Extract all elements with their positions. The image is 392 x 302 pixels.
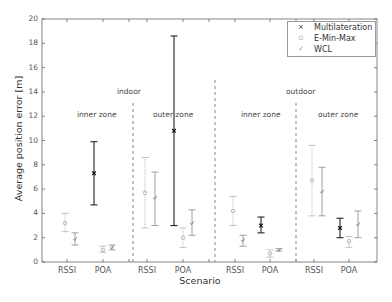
legend-label: E-Min-Max xyxy=(314,33,356,44)
annotation-indoor: indoor xyxy=(117,87,141,96)
error-bar-e-min-max xyxy=(100,246,107,252)
x-tick-poa-indoor-outer: POA xyxy=(163,266,203,275)
legend: × Multilateration ⊙ E-Min-Max ✓ WCL xyxy=(287,21,376,57)
error-bar-multilateration xyxy=(258,217,265,233)
error-bar-e-min-max xyxy=(142,158,149,228)
error-bar-multilateration xyxy=(337,218,344,237)
error-bar-e-min-max xyxy=(62,213,69,231)
error-bar-multilateration xyxy=(91,142,98,205)
x-tick-rssi-indoor-inner: RSSI xyxy=(47,266,87,275)
annotation-outdoor-inner-zone: inner zone xyxy=(241,110,281,119)
error-bar-wcl xyxy=(319,167,326,216)
error-bar-e-min-max xyxy=(346,236,353,247)
circle-marker-icon: ⊙ xyxy=(297,33,305,44)
check-marker-icon: ✓ xyxy=(297,44,305,55)
error-bar-wcl xyxy=(189,210,196,236)
x-tick-poa-outdoor-inner: POA xyxy=(250,266,290,275)
x-tick-rssi-outdoor-outer: RSSI xyxy=(294,266,334,275)
legend-label: Multilateration xyxy=(314,22,372,33)
legend-item-e-min-max: ⊙ E-Min-Max xyxy=(288,33,375,44)
x-tick-rssi-indoor-outer: RSSI xyxy=(127,266,167,275)
error-bar-e-min-max xyxy=(267,250,274,257)
error-bar-wcl xyxy=(355,211,362,238)
x-tick-rssi-outdoor-inner: RSSI xyxy=(215,266,255,275)
legend-item-wcl: ✓ WCL xyxy=(288,44,375,55)
error-bars xyxy=(62,36,362,257)
annotation-outdoor: outdoor xyxy=(286,87,315,96)
y-tick-20: 20 xyxy=(20,14,38,23)
error-bar-multilateration xyxy=(171,36,178,226)
error-bar-wcl xyxy=(276,248,283,251)
error-bar-e-min-max xyxy=(230,196,237,225)
y-tick-2: 2 xyxy=(20,233,38,242)
x-tick-poa-outdoor-outer: POA xyxy=(329,266,369,275)
legend-label: WCL xyxy=(314,44,332,55)
annotation-indoor-inner-zone: inner zone xyxy=(77,110,117,119)
error-bar-wcl xyxy=(152,172,159,225)
annotation-outdoor-outer-zone: outer zone xyxy=(318,110,358,119)
x-tick-poa-indoor-inner: POA xyxy=(83,266,123,275)
y-tick-18: 18 xyxy=(20,38,38,47)
error-bar-e-min-max xyxy=(180,228,187,247)
annotation-indoor-outer-zone: outer zone xyxy=(153,110,193,119)
x-marker-icon: × xyxy=(297,22,305,33)
scenario-dividers xyxy=(133,80,296,262)
error-bar-wcl xyxy=(240,235,247,246)
y-axis-label: Average position error [m] xyxy=(13,59,24,219)
legend-item-multilateration: × Multilateration xyxy=(288,22,375,33)
error-bar-wcl xyxy=(72,233,79,245)
error-bar-e-min-max xyxy=(309,145,316,215)
x-axis-label: Scenario xyxy=(150,275,250,286)
y-tick-0: 0 xyxy=(20,257,38,266)
error-bar-wcl xyxy=(109,245,116,250)
